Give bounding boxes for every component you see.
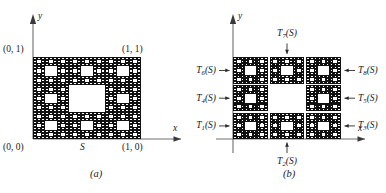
map-label-t4: T4(S): [196, 93, 216, 103]
carpet-decomposition: [233, 57, 341, 139]
axis-label-y-b: y: [238, 12, 242, 22]
label-point-1-1: (1, 1): [122, 45, 143, 55]
label-point-0-1: (0, 1): [3, 45, 24, 55]
panel-b: x y T1(S)T2(S)T3(S)T4(S)T5(S)T6(S)T7(S)T…: [193, 0, 386, 193]
panel-a: (0, 1) (1, 1) (0, 0) (1, 0) S x y (a): [0, 0, 193, 193]
map-label-t3: T3(S): [358, 120, 378, 130]
axis-label-x-a: x: [173, 124, 177, 134]
figure-sierpinski-carpet: (0, 1) (1, 1) (0, 0) (1, 0) S x y (a) x …: [0, 0, 386, 193]
label-set-s: S: [80, 143, 85, 153]
map-label-t8: T8(S): [358, 65, 378, 75]
caption-a: (a): [90, 168, 102, 179]
map-label-t6: T6(S): [196, 65, 216, 75]
panel-a-graphic: [0, 0, 193, 193]
axis-label-y-a: y: [38, 12, 42, 22]
map-label-t5: T5(S): [358, 93, 378, 103]
label-point-0-0: (0, 0): [3, 143, 24, 153]
label-point-1-0: (1, 0): [122, 143, 143, 153]
carpet-set-s: [33, 57, 141, 139]
map-label-t2: T2(S): [277, 156, 297, 166]
map-label-t7: T7(S): [277, 28, 297, 38]
caption-b: (b): [283, 168, 295, 179]
map-label-t1: T1(S): [196, 120, 216, 130]
